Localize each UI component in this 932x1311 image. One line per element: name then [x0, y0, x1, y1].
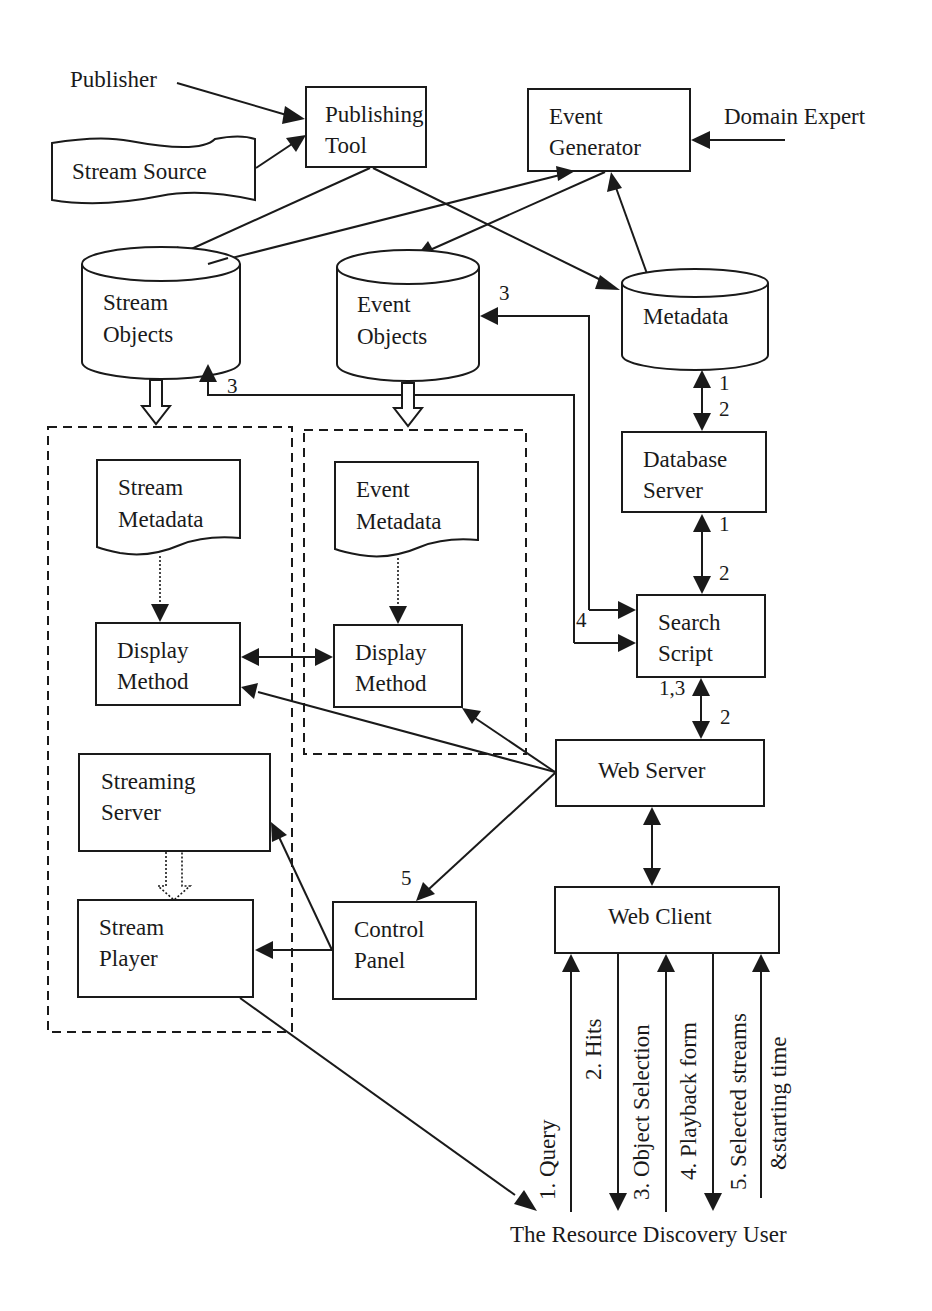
arrowhead-icon — [315, 648, 333, 666]
source-to-tool-arrow — [256, 144, 292, 168]
svg-text:Objects: Objects — [103, 322, 173, 347]
arrowhead-icon — [595, 275, 620, 290]
arrowhead-icon — [389, 606, 407, 624]
arrowhead-icon — [286, 135, 306, 152]
svg-text:Display: Display — [117, 638, 189, 663]
svg-text:2. Hits: 2. Hits — [581, 1019, 606, 1080]
arrowhead-icon — [692, 678, 710, 696]
arrowhead-icon — [462, 708, 481, 724]
svg-text:3. Object Selection: 3. Object Selection — [629, 1024, 654, 1200]
event-objects-to-group-arrow — [394, 383, 422, 426]
stream-objects-db: Stream Objects — [82, 247, 240, 379]
search-to-event-objects-arrow — [498, 316, 589, 610]
arrowhead-icon — [151, 604, 169, 622]
player-to-user-arrow — [240, 998, 515, 1195]
arrowhead-icon — [514, 1190, 537, 1211]
display-method-stream-node: Display Method — [96, 623, 240, 705]
svg-text:1: 1 — [719, 371, 730, 395]
svg-text:Publishing: Publishing — [325, 102, 424, 127]
stream-player-node: Stream Player — [78, 900, 253, 997]
streaming-server-node: Streaming Server — [79, 754, 270, 851]
arrowhead-icon — [618, 634, 636, 652]
arrowhead-icon — [693, 370, 711, 388]
arrowhead-icon — [241, 683, 258, 699]
publisher-label: Publisher — [70, 67, 157, 92]
arrowhead-icon — [609, 1193, 627, 1211]
svg-text:5. Selected streams: 5. Selected streams — [726, 1013, 751, 1190]
svg-text:Generator: Generator — [549, 135, 641, 160]
event-metadata-node: Event Metadata — [335, 462, 478, 556]
arrowhead-icon — [607, 172, 622, 192]
arrowhead-icon — [562, 954, 580, 972]
arrowhead-icon — [752, 954, 770, 972]
svg-text:&starting time: &starting time — [766, 1036, 791, 1170]
svg-text:Stream: Stream — [118, 475, 183, 500]
svg-text:3: 3 — [227, 374, 238, 398]
svg-text:Metadata: Metadata — [356, 509, 442, 534]
web-client-node: Web Client — [555, 887, 779, 953]
svg-text:Event: Event — [356, 477, 410, 502]
arrowhead-icon — [693, 413, 711, 431]
database-server-node: Database Server — [622, 432, 766, 512]
publisher-to-tool-arrow — [177, 83, 290, 116]
event-objects-db: Event Objects — [337, 250, 479, 381]
svg-text:Metadata: Metadata — [118, 507, 204, 532]
web-server-to-event-display-arrow — [475, 718, 555, 772]
control-panel-node: Control Panel — [333, 902, 476, 999]
svg-text:Streaming: Streaming — [101, 769, 196, 794]
arrowhead-icon — [643, 807, 661, 825]
svg-text:2: 2 — [719, 561, 730, 585]
svg-text:2: 2 — [720, 705, 731, 729]
arrowhead-icon — [618, 601, 636, 619]
svg-text:Server: Server — [101, 800, 161, 825]
svg-text:Stream: Stream — [99, 915, 164, 940]
svg-text:Search: Search — [658, 610, 721, 635]
svg-text:Metadata: Metadata — [643, 304, 729, 329]
streaming-server-to-player-arrow — [158, 852, 190, 900]
svg-text:Event: Event — [549, 104, 603, 129]
stream-metadata-node: Stream Metadata — [97, 460, 240, 554]
arrowhead-icon — [692, 721, 710, 739]
svg-text:Display: Display — [355, 640, 427, 665]
svg-text:1. Query: 1. Query — [535, 1119, 560, 1200]
metadata-db: Metadata — [622, 269, 768, 370]
arrowhead-icon — [704, 1193, 722, 1211]
svg-text:Event: Event — [357, 292, 411, 317]
search-script-node: Search Script — [637, 595, 765, 677]
arrowhead-icon — [657, 954, 675, 972]
arrowhead-icon — [282, 106, 305, 124]
svg-text:Objects: Objects — [357, 324, 427, 349]
svg-text:Control: Control — [354, 917, 424, 942]
publishing-tool-node: Publishing Tool — [306, 87, 426, 167]
resource-discovery-user-label: The Resource Discovery User — [510, 1222, 787, 1247]
stream-source-label: Stream Source — [72, 159, 207, 184]
svg-text:Player: Player — [99, 946, 158, 971]
stream-source-node: Stream Source — [52, 137, 255, 204]
svg-text:Database: Database — [643, 447, 727, 472]
svg-text:Web Client: Web Client — [608, 904, 712, 929]
event-generator-node: Event Generator — [528, 89, 690, 171]
arrowhead-icon — [693, 576, 711, 594]
svg-text:1,3: 1,3 — [659, 676, 685, 700]
domain-expert-label: Domain Expert — [724, 104, 866, 129]
svg-text:Web Server: Web Server — [598, 758, 706, 783]
svg-text:Method: Method — [355, 671, 427, 696]
svg-text:2: 2 — [719, 397, 730, 421]
display-method-event-node: Display Method — [334, 625, 462, 707]
svg-text:Tool: Tool — [325, 133, 367, 158]
svg-text:Panel: Panel — [354, 948, 405, 973]
svg-text:Script: Script — [658, 641, 714, 666]
generator-metadata-link — [615, 185, 650, 282]
web-server-to-control-panel-arrow — [429, 773, 555, 889]
arrowhead-icon — [241, 648, 259, 666]
arrowhead-icon — [693, 514, 711, 532]
svg-text:Stream: Stream — [103, 290, 168, 315]
arrowhead-icon — [643, 868, 661, 886]
web-server-node: Web Server — [556, 740, 764, 806]
arrowhead-icon — [255, 941, 273, 959]
arrowhead-icon — [691, 131, 710, 149]
control-panel-to-streaming-server-arrow — [279, 837, 332, 950]
svg-text:Method: Method — [117, 669, 189, 694]
stream-objects-to-group-arrow — [142, 380, 170, 424]
svg-text:4. Playback form: 4. Playback form — [676, 1022, 701, 1180]
